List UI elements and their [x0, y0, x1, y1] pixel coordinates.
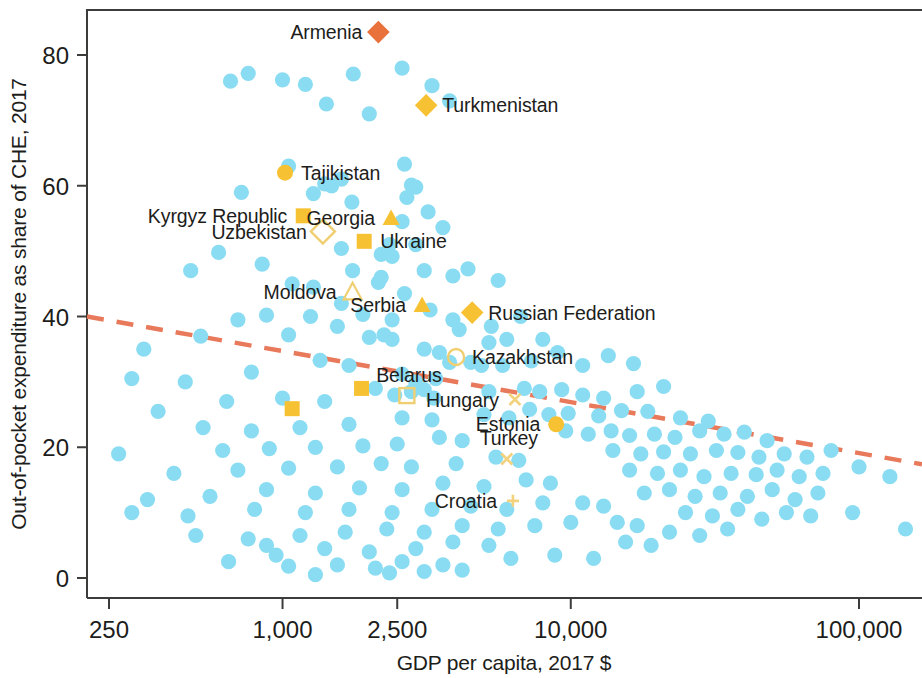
- scatter-point: [751, 450, 766, 465]
- scatter-point: [188, 528, 203, 543]
- scatter-point: [575, 358, 590, 373]
- scatter-point: [605, 443, 620, 458]
- scatter-point: [754, 512, 769, 527]
- scatter-point: [259, 482, 274, 497]
- scatter-point: [259, 308, 274, 323]
- country-label-hungary: Hungary: [426, 389, 499, 411]
- scatter-point: [151, 404, 166, 419]
- scatter-point: [371, 275, 386, 290]
- scatter-point: [667, 430, 682, 445]
- scatter-point: [368, 561, 383, 576]
- scatter-point: [705, 508, 720, 523]
- scatter-point: [341, 417, 356, 432]
- scatter-point: [219, 394, 234, 409]
- scatter-point: [630, 384, 645, 399]
- scatter-point: [306, 186, 321, 201]
- scatter-point: [644, 538, 659, 553]
- scatter-point: [630, 518, 645, 533]
- scatter-point: [292, 528, 307, 543]
- scatter-point: [432, 430, 447, 445]
- scatter-point: [330, 557, 345, 572]
- scatter-point: [519, 472, 534, 487]
- scatter-point: [882, 469, 897, 484]
- scatter-point: [341, 502, 356, 517]
- scatter-point: [720, 521, 735, 536]
- scatter-point: [737, 425, 752, 440]
- scatter-point: [330, 459, 345, 474]
- scatter-point: [362, 106, 377, 121]
- y-axis-title: Out-of-pocket expenditure as share of CH…: [7, 78, 30, 530]
- scatter-point: [626, 356, 641, 371]
- x-tick-label: 2,500: [367, 616, 427, 643]
- country-marker-armenia: [367, 21, 390, 44]
- scatter-point: [308, 440, 323, 455]
- scatter-point: [281, 559, 296, 574]
- scatter-point: [511, 453, 526, 468]
- scatter-point: [334, 241, 349, 256]
- scatter-point: [535, 332, 550, 347]
- scatter-point: [374, 456, 389, 471]
- scatter-point: [313, 353, 328, 368]
- scatter-point: [221, 554, 236, 569]
- scatter-point: [696, 469, 711, 484]
- scatter-point: [554, 382, 569, 397]
- scatter-point: [452, 322, 467, 337]
- country-marker-tajikistan: [277, 165, 293, 181]
- scatter-point: [770, 463, 785, 478]
- scatter-point: [749, 467, 764, 482]
- scatter-point: [455, 433, 470, 448]
- scatter-point: [792, 469, 807, 484]
- scatter-point: [395, 61, 410, 76]
- scatter-point: [382, 565, 397, 580]
- scatter-point: [788, 492, 803, 507]
- country-label-uzbekistan: Uzbekistan: [211, 221, 306, 243]
- scatter-point: [355, 438, 370, 453]
- scatter-point: [561, 406, 576, 421]
- scatter-point: [417, 342, 432, 357]
- scatter-point: [404, 459, 419, 474]
- scatter-point: [481, 538, 496, 553]
- scatter-point: [810, 485, 825, 500]
- scatter-point: [424, 412, 439, 427]
- scatter-point: [662, 482, 677, 497]
- scatter-point: [460, 261, 475, 276]
- scatter-point: [716, 427, 731, 442]
- scatter-point: [713, 485, 728, 500]
- scatter-point: [259, 538, 274, 553]
- scatter-point: [622, 428, 637, 443]
- y-tick-label: 20: [42, 434, 69, 461]
- scatter-point: [281, 327, 296, 342]
- scatter-point: [656, 444, 671, 459]
- scatter-point: [688, 489, 703, 504]
- country-label-belarus: Belarus: [376, 364, 442, 386]
- y-tick-label: 80: [42, 42, 69, 69]
- scatter-point: [385, 505, 400, 520]
- scatter-point: [408, 541, 423, 556]
- scatter-point: [614, 403, 629, 418]
- scatter-point: [491, 521, 506, 536]
- scatter-point: [799, 450, 814, 465]
- x-tick-label: 100,000: [816, 616, 903, 643]
- scatter-point: [673, 463, 688, 478]
- scatter-point: [445, 268, 460, 283]
- scatter-point: [803, 508, 818, 523]
- scatter-point: [341, 358, 356, 373]
- scatter-point: [178, 374, 193, 389]
- scatter-point: [124, 371, 139, 386]
- scatter-point: [298, 77, 313, 92]
- scatter-point: [673, 410, 688, 425]
- scatter-point: [298, 505, 313, 520]
- scatter-point: [535, 495, 550, 510]
- scatter-point: [346, 66, 361, 81]
- scatter-point: [281, 461, 296, 476]
- country-label-moldova: Moldova: [264, 281, 337, 303]
- scatter-point: [404, 384, 419, 399]
- scatter-point: [435, 557, 450, 572]
- scatter-point: [292, 420, 307, 435]
- scatter-point: [779, 505, 794, 520]
- scatter-point: [352, 480, 367, 495]
- scatter-point: [124, 505, 139, 520]
- scatter-point: [255, 257, 270, 272]
- scatter-point: [633, 446, 648, 461]
- scatter-point: [662, 525, 677, 540]
